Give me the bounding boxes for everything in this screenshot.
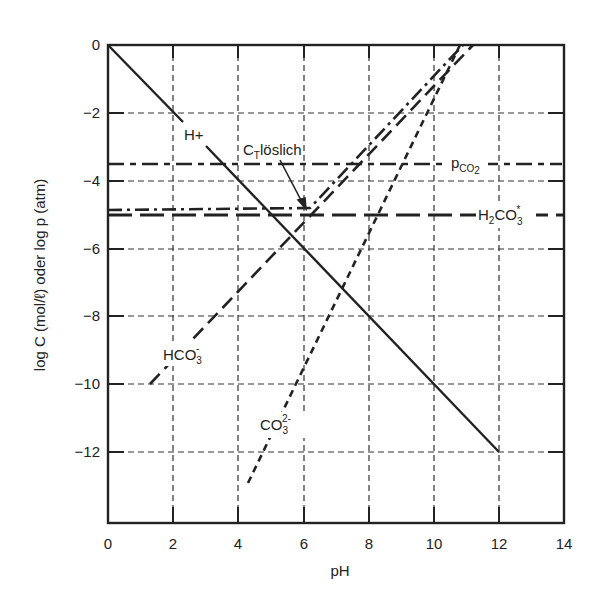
svg-text:−10: −10: [75, 375, 100, 392]
label-hco3: HCO3-: [163, 343, 202, 366]
svg-text:4: 4: [234, 535, 242, 552]
y-axis-title: log C (mol/ℓ) oder log p (atm): [31, 179, 48, 371]
svg-text:14: 14: [556, 535, 573, 552]
series-ct-loeslich: [108, 45, 463, 210]
svg-text:6: 6: [300, 535, 308, 552]
svg-text:−2: −2: [83, 104, 100, 121]
svg-text:−4: −4: [83, 172, 100, 189]
svg-text:2: 2: [169, 535, 177, 552]
svg-text:−12: −12: [75, 443, 100, 460]
svg-text:8: 8: [365, 535, 373, 552]
label-h-plus: H+: [184, 126, 204, 143]
y-tick-labels: 0 −2 −4 −6 −8 −10 −12: [75, 36, 100, 460]
svg-text:−6: −6: [83, 240, 100, 257]
svg-text:12: 12: [491, 535, 508, 552]
series-hco3: [150, 45, 473, 384]
x-axis-title: pH: [330, 562, 349, 579]
chart-canvas: 0 −2 −4 −6 −8 −10 −12 0 2 4 6 8 10 12 14…: [0, 0, 605, 614]
arrow-icon: [280, 160, 306, 209]
svg-text:0: 0: [104, 535, 112, 552]
svg-text:−8: −8: [83, 307, 100, 324]
label-co3: CO32-: [260, 413, 291, 436]
svg-text:10: 10: [426, 535, 443, 552]
svg-text:0: 0: [92, 36, 100, 53]
label-ct-loeslich: CTlöslich: [243, 141, 302, 161]
x-tick-labels: 0 2 4 6 8 10 12 14: [104, 535, 573, 552]
